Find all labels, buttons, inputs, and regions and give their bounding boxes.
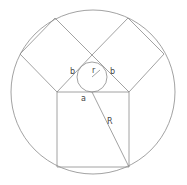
radius-R-line (92, 92, 129, 167)
label-b-right: b (110, 67, 115, 76)
square-a (57, 92, 129, 167)
square-b-left (20, 18, 92, 92)
label-b-left: b (70, 67, 75, 76)
label-a: a (81, 94, 86, 103)
square-b-right (92, 18, 164, 92)
label-R: R (107, 117, 113, 126)
geometry-diagram: b b r a R (0, 0, 187, 185)
